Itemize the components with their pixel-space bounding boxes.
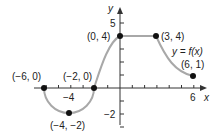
segment-rise — [94, 36, 120, 88]
label-point-6-1: (6, 1) — [181, 59, 204, 70]
label-point-neg6-0: (−6, 0) — [12, 71, 41, 82]
x-axis-label: x — [203, 92, 210, 103]
y-tick-label-5: 5 — [110, 18, 116, 29]
label-point-neg4-neg2: (−4, −2) — [50, 120, 85, 131]
label-point-3-4: (3, 4) — [161, 31, 184, 42]
point-3-4 — [153, 33, 159, 39]
point-neg2-0 — [91, 85, 97, 91]
x-axis-arrow-icon — [200, 85, 207, 91]
point-neg6-0 — [41, 85, 47, 91]
y-axis-label: y — [107, 3, 114, 14]
x-tick-label-neg4: −4 — [63, 92, 75, 103]
label-point-neg2-0: (−2, 0) — [63, 71, 92, 82]
y-axis-arrow-icon — [117, 7, 123, 14]
label-point-0-4: (0, 4) — [87, 31, 110, 42]
function-label: y = f(x) — [171, 46, 203, 57]
point-neg4-neg2 — [66, 110, 72, 116]
x-tick-label-6: 6 — [190, 92, 196, 103]
point-0-4 — [117, 33, 123, 39]
y-tick-label-neg2: −2 — [104, 109, 116, 120]
function-graph: (−6, 0) (−4, −2) (−2, 0) (0, 4) (3, 4) (… — [0, 0, 218, 138]
point-6-1 — [190, 73, 196, 79]
